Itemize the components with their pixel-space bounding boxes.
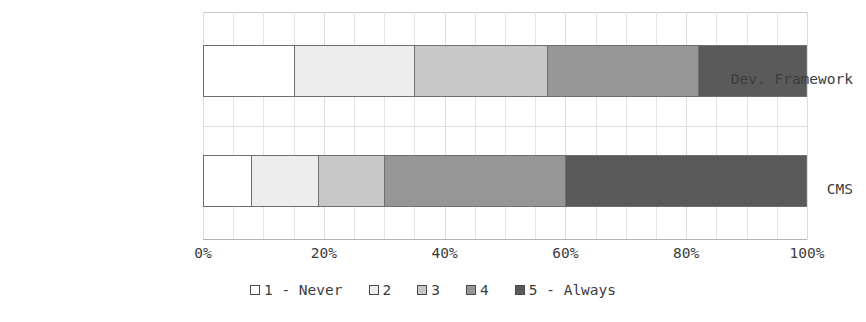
legend-swatch-icon xyxy=(417,285,427,295)
legend-item-label: 4 xyxy=(480,282,489,298)
x-tick-label: 80% xyxy=(673,245,699,261)
bar-segment[interactable] xyxy=(318,155,384,207)
category-label-cms: CMS xyxy=(676,181,866,197)
x-tick-label: 40% xyxy=(431,245,457,261)
bar-segment[interactable] xyxy=(294,45,415,97)
x-tick-label: 60% xyxy=(552,245,578,261)
category-label-dev-framework: Dev. Framework xyxy=(676,71,866,87)
legend-swatch-icon xyxy=(466,285,476,295)
legend-item-label: 5 - Always xyxy=(529,282,616,298)
legend-item-label: 3 xyxy=(431,282,440,298)
legend-item-label: 1 - Never xyxy=(264,282,343,298)
chart-legend: 1 - Never2345 - Always xyxy=(0,282,866,298)
gridline-vertical xyxy=(807,12,808,240)
legend-item-label: 2 xyxy=(383,282,392,298)
x-tick-label: 100% xyxy=(790,245,825,261)
category-label-text: CMS xyxy=(827,181,866,197)
bar-segment[interactable] xyxy=(251,155,317,207)
legend-item[interactable]: 4 xyxy=(466,282,489,298)
bar-segment[interactable] xyxy=(384,155,565,207)
x-tick-label: 20% xyxy=(311,245,337,261)
legend-item[interactable]: 1 - Never xyxy=(250,282,343,298)
legend-swatch-icon xyxy=(369,285,379,295)
bar-segment[interactable] xyxy=(203,45,294,97)
legend-item[interactable]: 3 xyxy=(417,282,440,298)
legend-item[interactable]: 2 xyxy=(369,282,392,298)
legend-swatch-icon xyxy=(250,285,260,295)
legend-item[interactable]: 5 - Always xyxy=(515,282,616,298)
x-tick-label: 0% xyxy=(194,245,211,261)
plot-area xyxy=(203,12,807,240)
gridline-horizontal xyxy=(203,126,807,127)
category-label-text: Dev. Framework xyxy=(731,71,866,87)
bar-segment[interactable] xyxy=(203,155,251,207)
x-axis-line xyxy=(203,239,807,240)
x-axis-tick-labels: 0%20%40%60%80%100% xyxy=(203,245,807,267)
legend-swatch-icon xyxy=(515,285,525,295)
bar-segment[interactable] xyxy=(414,45,547,97)
stacked-bar-chart: Dev. Framework CMS 0%20%40%60%80%100% 1 … xyxy=(0,0,866,322)
